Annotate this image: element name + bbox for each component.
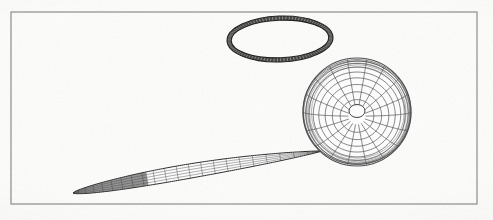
figure-canvas: Scanned line drawing showing three wiref… — [0, 0, 493, 220]
meshed-sphere — [303, 58, 411, 166]
paper-background — [0, 0, 493, 220]
wireframe-drawing — [0, 0, 493, 220]
